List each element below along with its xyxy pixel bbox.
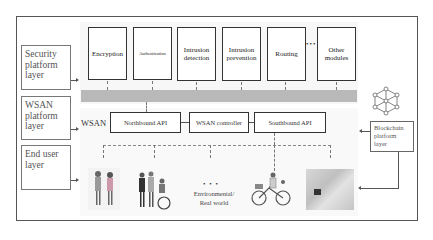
module-label: Routing — [275, 50, 298, 58]
wsan-controller-box: WSAN controller — [189, 112, 249, 133]
connector — [181, 122, 189, 123]
security-layer-text: Security platform layer — [25, 49, 58, 80]
connector — [152, 81, 153, 90]
southbound-api-box: Southbound API — [254, 112, 326, 133]
connector — [241, 82, 242, 90]
real-world-photo — [306, 169, 354, 210]
module-label: Intrusion prevention — [224, 46, 259, 62]
module-label: Intrusion detection — [179, 46, 214, 62]
controller-label: WSAN controller — [196, 119, 242, 126]
modules-ellipsis: ••• — [306, 40, 316, 48]
blockchain-network-icon — [370, 86, 402, 116]
real-world-line1: Environmental/ — [189, 189, 239, 198]
real-world-label: Environmental/ Real world — [189, 189, 239, 207]
module-encryption: Encryption — [88, 27, 127, 80]
connector — [107, 81, 108, 90]
connector — [330, 145, 331, 158]
arrowhead-icon — [358, 186, 361, 190]
people-wheelchair-icon — [136, 170, 172, 212]
arrowhead-icon — [76, 78, 79, 82]
connector — [103, 145, 104, 158]
distribution-line — [103, 145, 331, 146]
blockchain-to-wsan-connector — [362, 131, 370, 132]
wsan-platform-layer-label: WSAN platform layer — [21, 96, 71, 140]
connector — [210, 145, 211, 158]
people-talking-icon — [88, 168, 120, 210]
connector — [196, 82, 197, 90]
photo-detail — [314, 189, 321, 195]
northbound-label: Northbound API — [124, 119, 167, 126]
module-other: Other modules — [317, 27, 356, 81]
module-intrusion-detection: Intrusion detection — [177, 27, 216, 81]
connector — [154, 145, 155, 158]
bicycle-rider-icon — [251, 172, 293, 208]
module-intrusion-prevention: Intrusion prevention — [222, 27, 261, 81]
connector — [285, 82, 286, 90]
real-world-dots: • • • — [203, 180, 219, 188]
end-user-layer-text: End user layer — [25, 149, 59, 170]
blockchain-layer-text: Blockchain platform layer — [374, 124, 404, 147]
blockchain-to-realworld-connector — [361, 188, 399, 189]
module-label: Encryption — [92, 50, 123, 58]
arrowhead-icon — [359, 129, 362, 133]
arrowhead-icon — [76, 127, 79, 131]
module-label: Authentication — [139, 50, 166, 58]
module-routing: Routing — [267, 27, 306, 81]
wsan-label: WSAN — [81, 118, 106, 128]
security-bus-bar — [81, 90, 357, 102]
arrowhead-icon — [76, 178, 79, 182]
security-platform-layer-label: Security platform layer — [21, 45, 71, 90]
wsan-layer-text: WSAN platform layer — [25, 100, 58, 131]
connector — [274, 145, 275, 171]
blockchain-platform-layer-label: Blockchain platform layer — [370, 121, 414, 152]
southbound-label: Southbound API — [268, 119, 311, 126]
module-authentication: Authentication — [133, 27, 172, 80]
connector — [274, 133, 275, 145]
connector — [146, 102, 147, 112]
connector — [336, 82, 337, 90]
blockchain-down-connector — [398, 152, 399, 188]
real-world-line2: Real world — [189, 198, 239, 207]
northbound-api-box: Northbound API — [110, 112, 181, 133]
end-user-layer-label: End user layer — [21, 145, 71, 190]
module-label: Other modules — [319, 46, 354, 62]
